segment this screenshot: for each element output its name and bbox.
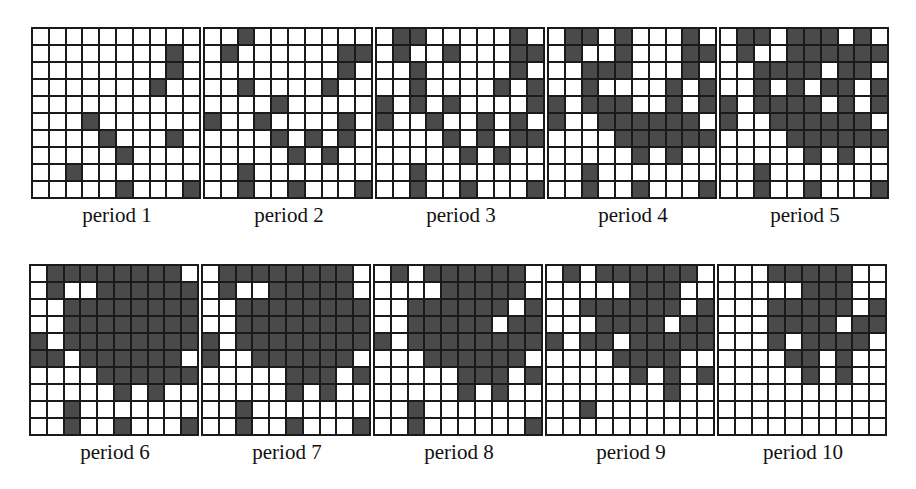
filled-cell bbox=[31, 334, 46, 349]
empty-cell bbox=[203, 419, 218, 434]
filled-cell bbox=[255, 114, 270, 129]
filled-cell bbox=[270, 334, 285, 349]
filled-cell bbox=[648, 317, 663, 332]
empty-cell bbox=[698, 419, 713, 434]
filled-cell bbox=[253, 351, 268, 366]
filled-cell bbox=[476, 266, 491, 281]
filled-cell bbox=[65, 419, 80, 434]
filled-cell bbox=[583, 97, 598, 112]
empty-cell bbox=[392, 351, 407, 366]
empty-cell bbox=[356, 131, 371, 146]
empty-cell bbox=[631, 402, 646, 417]
empty-cell bbox=[272, 46, 287, 61]
empty-cell bbox=[650, 46, 665, 61]
empty-cell bbox=[599, 182, 614, 197]
empty-cell bbox=[495, 63, 510, 78]
filled-cell bbox=[822, 114, 837, 129]
filled-cell bbox=[98, 317, 113, 332]
empty-cell bbox=[738, 131, 753, 146]
empty-cell bbox=[67, 46, 82, 61]
empty-cell bbox=[547, 402, 562, 417]
empty-cell bbox=[648, 368, 663, 383]
empty-cell bbox=[719, 334, 734, 349]
empty-cell bbox=[870, 283, 885, 298]
empty-cell bbox=[493, 317, 508, 332]
empty-cell bbox=[339, 97, 354, 112]
filled-cell bbox=[444, 46, 459, 61]
empty-cell bbox=[805, 165, 820, 180]
filled-cell bbox=[165, 368, 180, 383]
filled-cell bbox=[149, 385, 164, 400]
filled-cell bbox=[616, 97, 631, 112]
empty-cell bbox=[495, 46, 510, 61]
filled-cell bbox=[853, 334, 868, 349]
empty-cell bbox=[31, 266, 46, 281]
empty-cell bbox=[839, 182, 854, 197]
filled-cell bbox=[476, 351, 491, 366]
empty-cell bbox=[700, 148, 715, 163]
empty-cell bbox=[394, 182, 409, 197]
filled-cell bbox=[321, 385, 336, 400]
panel-label: period 6 bbox=[29, 440, 201, 464]
empty-cell bbox=[495, 29, 510, 44]
empty-cell bbox=[132, 385, 147, 400]
filled-cell bbox=[132, 368, 147, 383]
filled-cell bbox=[837, 334, 852, 349]
empty-cell bbox=[698, 283, 713, 298]
empty-cell bbox=[719, 402, 734, 417]
empty-cell bbox=[769, 402, 784, 417]
empty-cell bbox=[870, 385, 885, 400]
empty-cell bbox=[323, 46, 338, 61]
empty-cell bbox=[321, 419, 336, 434]
filled-cell bbox=[820, 283, 835, 298]
empty-cell bbox=[853, 300, 868, 315]
filled-cell bbox=[648, 283, 663, 298]
empty-cell bbox=[339, 29, 354, 44]
filled-cell bbox=[786, 266, 801, 281]
filled-cell bbox=[667, 131, 682, 146]
filled-cell bbox=[253, 300, 268, 315]
empty-cell bbox=[100, 165, 115, 180]
filled-cell bbox=[528, 97, 543, 112]
filled-cell bbox=[287, 300, 302, 315]
empty-cell bbox=[769, 368, 784, 383]
empty-cell bbox=[822, 63, 837, 78]
empty-cell bbox=[184, 114, 199, 129]
empty-cell bbox=[255, 97, 270, 112]
empty-cell bbox=[667, 29, 682, 44]
filled-cell bbox=[493, 334, 508, 349]
filled-cell bbox=[182, 419, 197, 434]
filled-cell bbox=[377, 97, 392, 112]
empty-cell bbox=[459, 419, 474, 434]
filled-cell bbox=[354, 334, 369, 349]
empty-cell bbox=[872, 114, 887, 129]
filled-cell bbox=[149, 351, 164, 366]
filled-cell bbox=[509, 283, 524, 298]
filled-cell bbox=[837, 368, 852, 383]
empty-cell bbox=[427, 46, 442, 61]
filled-cell bbox=[337, 266, 352, 281]
empty-cell bbox=[134, 114, 149, 129]
filled-cell bbox=[803, 368, 818, 383]
empty-cell bbox=[616, 148, 631, 163]
empty-cell bbox=[184, 80, 199, 95]
empty-cell bbox=[839, 165, 854, 180]
empty-cell bbox=[304, 419, 319, 434]
filled-cell bbox=[203, 351, 218, 366]
empty-cell bbox=[205, 182, 220, 197]
empty-cell bbox=[614, 368, 629, 383]
empty-cell bbox=[375, 300, 390, 315]
empty-cell bbox=[222, 97, 237, 112]
filled-cell bbox=[837, 300, 852, 315]
filled-cell bbox=[597, 334, 612, 349]
empty-cell bbox=[837, 419, 852, 434]
filled-cell bbox=[648, 266, 663, 281]
empty-cell bbox=[117, 29, 132, 44]
empty-cell bbox=[394, 80, 409, 95]
filled-cell bbox=[65, 402, 80, 417]
empty-cell bbox=[478, 80, 493, 95]
empty-cell bbox=[237, 385, 252, 400]
empty-cell bbox=[81, 385, 96, 400]
empty-cell bbox=[442, 385, 457, 400]
filled-cell bbox=[855, 63, 870, 78]
